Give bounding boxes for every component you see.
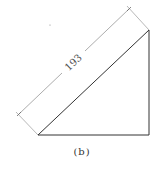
dimension-line-upper: [85, 9, 129, 51]
right-triangle: [38, 30, 149, 135]
dimension-label: 193: [63, 52, 84, 73]
stray-dot: [49, 24, 50, 25]
triangle-diagram: 193: [0, 0, 164, 170]
figure-caption: (b): [0, 146, 164, 157]
extension-line-right: [127, 6, 149, 30]
extension-line-left: [16, 112, 38, 135]
dimension-tick-right: [127, 7, 131, 11]
dimension-line-lower: [19, 73, 62, 114]
